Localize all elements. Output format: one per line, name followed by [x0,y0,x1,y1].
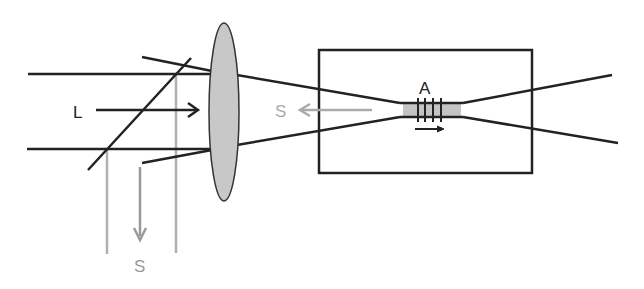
output-beam-top [463,75,612,103]
scattered-out-label: S [134,257,145,276]
laser-label: L [73,103,82,122]
acoustic-arrow-head-icon [437,126,444,132]
output-beam-bottom [463,117,618,143]
acoustic-label: A [419,79,431,98]
focused-beam-top [225,73,400,103]
optical-diagram: L S A S [0,0,644,289]
lens [209,23,239,201]
return-beam-top [142,57,212,71]
focused-beam-bottom [225,117,400,147]
scattered-back-label: S [275,102,286,121]
